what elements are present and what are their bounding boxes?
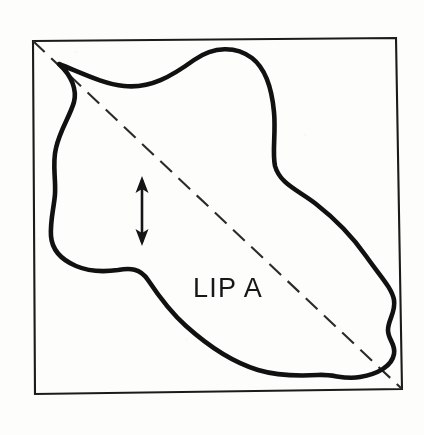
lip-a-diagram: LIP A [0,0,424,435]
lip-a-blob-outline [51,49,394,378]
lip-a-label: LIP A [193,273,263,303]
thickness-arrow-group [136,176,149,246]
figure-canvas: LIP A [0,0,424,435]
diagonal-dashed-section-line [33,41,402,389]
